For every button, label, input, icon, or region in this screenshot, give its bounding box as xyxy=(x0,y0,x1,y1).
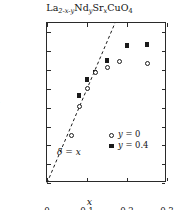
legend-item-y-04: y = 0.4 xyxy=(107,140,148,151)
y-tick-mark xyxy=(47,183,51,184)
data-point-circle xyxy=(145,61,150,66)
x-tick-mark-top xyxy=(87,23,88,27)
y-tick-mark xyxy=(47,70,51,71)
chart-figure: La2-x-yNdySrxCuO4 δ/r.l.u. x 0.000.020.0… xyxy=(0,0,179,210)
title-nd-subscript: y xyxy=(89,7,93,15)
y-tick-mark-right xyxy=(162,145,166,146)
guide-line-annotation: δ = x xyxy=(57,147,81,157)
filled-square-icon xyxy=(107,141,116,150)
delta-equals-x-dashed-line xyxy=(47,23,115,183)
x-tick-label: 0.3 xyxy=(152,207,179,210)
data-point-square xyxy=(125,43,130,48)
data-point-circle xyxy=(77,104,82,109)
annotation-x: x xyxy=(76,147,81,157)
y-tick-mark xyxy=(47,89,51,90)
x-tick-mark-top xyxy=(47,23,48,27)
data-point-circle xyxy=(105,65,110,70)
title-la: La xyxy=(46,2,58,13)
title-sr: Sr xyxy=(92,2,103,13)
y-tick-mark-right xyxy=(162,89,166,90)
data-point-square xyxy=(145,42,150,47)
y-tick-mark-right xyxy=(162,108,166,109)
chart-legend: y = 0 y = 0.4 xyxy=(107,129,148,151)
title-nd: Nd xyxy=(74,2,88,13)
y-tick-mark-right xyxy=(162,164,166,165)
legend-label-y-04: y = 0.4 xyxy=(118,140,148,151)
x-tick-mark xyxy=(167,178,168,182)
x-tick-mark-top xyxy=(167,23,168,27)
data-point-circle xyxy=(117,59,122,64)
y-tick-mark xyxy=(47,32,51,33)
x-tick-mark-top xyxy=(127,23,128,27)
data-point-square xyxy=(85,77,90,82)
y-tick-mark xyxy=(47,145,51,146)
y-tick-mark-right xyxy=(162,127,166,128)
data-point-circle xyxy=(85,86,90,91)
title-sr-subscript: x xyxy=(104,7,108,15)
annotation-equals: = xyxy=(62,147,75,157)
y-tick-mark xyxy=(47,51,51,52)
x-tick-mark xyxy=(87,178,88,182)
plot-inner: 0.000.020.040.060.080.100.120.140.16 00.… xyxy=(47,23,165,181)
y-tick-mark xyxy=(47,127,51,128)
data-point-square xyxy=(77,93,82,98)
title-cuo: CuO xyxy=(107,2,128,13)
y-tick-mark xyxy=(47,164,51,165)
x-tick-label: 0.2 xyxy=(112,207,142,210)
x-tick-mark xyxy=(127,178,128,182)
data-point-square xyxy=(105,58,110,63)
y-axis-label-units: /r.l.u. xyxy=(0,78,1,103)
y-tick-mark-right xyxy=(162,183,166,184)
chart-title: La2-x-yNdySrxCuO4 xyxy=(0,2,179,13)
title-la-subscript: 2-x-y xyxy=(58,7,74,15)
guide-line-layer xyxy=(47,23,167,183)
y-tick-mark xyxy=(47,108,51,109)
y-axis-label: δ/r.l.u. xyxy=(0,78,1,109)
title-cuo-subscript: 4 xyxy=(128,7,132,15)
y-tick-mark-right xyxy=(162,32,166,33)
x-tick-label: 0 xyxy=(32,207,62,210)
data-point-circle xyxy=(93,70,98,75)
x-tick-label: 0.1 xyxy=(72,207,102,210)
y-tick-mark-right xyxy=(162,70,166,71)
y-axis-label-delta: δ xyxy=(0,103,1,109)
y-tick-mark-right xyxy=(162,51,166,52)
open-circle-icon xyxy=(107,130,116,139)
legend-item-y-0: y = 0 xyxy=(107,129,148,140)
plot-area: 0.000.020.040.060.080.100.120.140.16 00.… xyxy=(46,22,166,182)
legend-label-y-0: y = 0 xyxy=(118,129,140,140)
x-tick-mark xyxy=(47,178,48,182)
